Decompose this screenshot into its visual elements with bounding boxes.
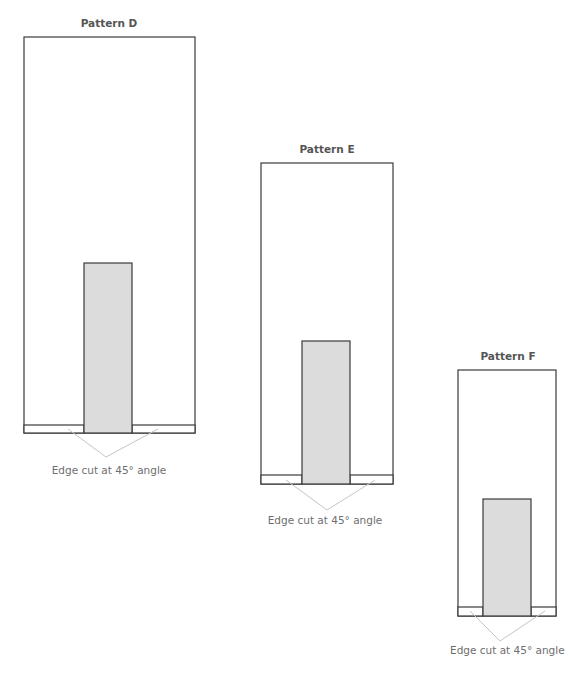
pattern-e-left-edge-strip	[261, 475, 302, 484]
patterns-diagram: Pattern D Edge cut at 45° angle Pattern …	[0, 0, 572, 693]
pattern-d-right-edge-strip	[132, 425, 195, 433]
pattern-f-edge-label: Edge cut at 45° angle	[450, 644, 565, 656]
pattern-e-edge-label: Edge cut at 45° angle	[268, 514, 383, 526]
pattern-d-title: Pattern D	[81, 17, 138, 29]
pattern-f: Pattern F Edge cut at 45° angle	[450, 350, 565, 656]
pattern-e-insert	[302, 341, 350, 484]
pattern-e: Pattern E Edge cut at 45° angle	[261, 143, 393, 526]
pattern-f-title: Pattern F	[480, 350, 535, 362]
pattern-f-insert	[483, 499, 531, 616]
pattern-e-title: Pattern E	[299, 143, 354, 155]
pattern-d-edge-label: Edge cut at 45° angle	[52, 464, 167, 476]
pattern-d-left-edge-strip	[24, 425, 84, 433]
pattern-d: Pattern D Edge cut at 45° angle	[24, 17, 195, 476]
pattern-d-insert	[84, 263, 132, 433]
